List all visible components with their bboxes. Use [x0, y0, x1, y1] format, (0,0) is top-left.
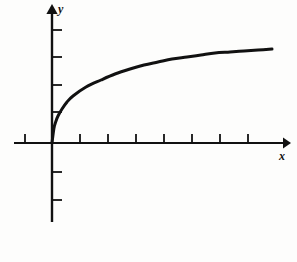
increasing-concave-curve: [52, 49, 272, 143]
x-axis-label: x: [279, 150, 285, 162]
figure-container: y x: [0, 0, 297, 262]
graph-canvas: [0, 0, 297, 262]
y-axis-arrow-icon: [46, 4, 57, 14]
y-axis-label: y: [58, 3, 63, 15]
x-axis-arrow-icon: [283, 138, 291, 149]
x-axis-ticks: [25, 134, 248, 143]
